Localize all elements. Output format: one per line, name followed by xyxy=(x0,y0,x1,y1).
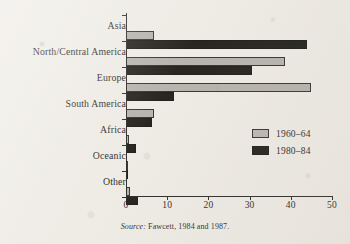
bar-1980-84 xyxy=(126,66,252,75)
y-axis-tick xyxy=(122,171,126,172)
category-label: North/Central America xyxy=(33,46,126,57)
legend-item: 1960–64 xyxy=(252,127,311,140)
legend-label-1960-64: 1960–64 xyxy=(276,129,311,139)
category-label: Asia xyxy=(107,20,126,31)
bar-1960-64 xyxy=(126,57,285,66)
legend-item: 1980–84 xyxy=(252,144,311,157)
category-label: Africa xyxy=(100,124,126,135)
x-axis-tick-label: 0 xyxy=(124,200,129,210)
y-axis-line xyxy=(126,13,127,197)
x-axis-tick-label: 10 xyxy=(162,200,172,210)
source-text: Fawcett, 1984 and 1987. xyxy=(148,222,229,231)
bar-1960-64 xyxy=(126,83,311,92)
source-note: Source: Fawcett, 1984 and 1987. xyxy=(0,222,350,231)
y-axis-tick xyxy=(122,145,126,146)
y-axis-tick xyxy=(122,197,126,198)
bar-1980-84 xyxy=(126,92,174,101)
y-axis-tick xyxy=(122,67,126,68)
bar-1980-84 xyxy=(126,40,307,49)
x-axis-line xyxy=(126,196,333,197)
bar-1960-64 xyxy=(126,31,154,40)
legend-label-1980-84: 1980–84 xyxy=(276,146,311,156)
legend-swatch-1960-64-icon xyxy=(252,129,269,138)
category-label: South America xyxy=(66,98,126,109)
legend-swatch-1980-84-icon xyxy=(252,146,269,155)
category-label: Other xyxy=(103,176,126,187)
bar-1980-84 xyxy=(126,118,152,127)
category-label: Oceanic xyxy=(93,150,126,161)
bar-chart: 1960–64 1980–84 Source: Fawcett, 1984 an… xyxy=(0,0,350,244)
bar-1960-64 xyxy=(126,109,154,118)
bar-1980-84 xyxy=(126,144,136,153)
plot-area xyxy=(126,14,332,196)
x-axis-tick-label: 50 xyxy=(327,200,337,210)
y-axis-tick xyxy=(122,93,126,94)
category-label: Europe xyxy=(97,72,126,83)
x-axis-tick-label: 20 xyxy=(203,200,213,210)
x-axis-tick-label: 40 xyxy=(286,200,296,210)
y-axis-tick xyxy=(122,119,126,120)
source-label: Source: xyxy=(121,222,146,231)
y-axis-tick xyxy=(122,41,126,42)
chart-legend: 1960–64 1980–84 xyxy=(252,127,311,161)
x-axis-tick-label: 30 xyxy=(245,200,255,210)
y-axis-tick xyxy=(122,15,126,16)
